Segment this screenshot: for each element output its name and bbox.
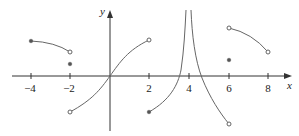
filled-point-x-p2 (147, 110, 151, 114)
function-graph: −4 −2 2 4 6 8 x y (0, 0, 299, 136)
curve-segment-4 (191, 10, 229, 124)
tick-label-m2: −2 (63, 82, 75, 94)
tick-label-p6: 6 (226, 82, 232, 94)
tick-label-p4: 4 (186, 82, 192, 94)
filled-point-x-p6 (227, 58, 231, 62)
curve-segment-3 (149, 10, 186, 112)
open-point-x-m2-upper (68, 50, 72, 54)
y-axis-arrow-icon (107, 10, 113, 18)
open-point-x-p2-upper (147, 38, 151, 42)
open-point-x-p6-upper (227, 26, 231, 30)
filled-point-x-m2 (68, 62, 72, 66)
open-point-x-m2-lower (68, 110, 72, 114)
tick-label-p2: 2 (146, 82, 152, 94)
x-axis-label: x (286, 79, 292, 91)
open-point-x-p8 (266, 50, 270, 54)
filled-point-x-m4 (29, 39, 33, 43)
curve-segment-5 (229, 28, 268, 52)
tick-label-p8: 8 (265, 82, 271, 94)
tick-label-m4: −4 (24, 82, 36, 94)
curve-segment-1 (31, 41, 70, 52)
y-axis-label: y (99, 5, 105, 17)
open-point-x-p6-lower (227, 122, 231, 126)
